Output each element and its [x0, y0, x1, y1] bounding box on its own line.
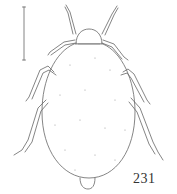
scale-bar [23, 7, 26, 60]
setae-dots [54, 57, 125, 170]
cauda [80, 178, 95, 189]
abdomen [42, 44, 135, 178]
leg-mid-left [26, 66, 56, 101]
figure-plate: 231 [0, 0, 177, 194]
aphid-illustration [0, 0, 177, 194]
head [76, 29, 102, 44]
figure-number: 231 [133, 171, 156, 187]
leg-front-right [102, 40, 128, 60]
antenna-left [65, 5, 76, 34]
leg-mid-right [121, 69, 150, 104]
antenna-right [102, 6, 118, 35]
